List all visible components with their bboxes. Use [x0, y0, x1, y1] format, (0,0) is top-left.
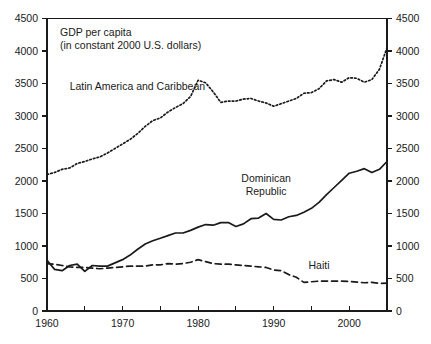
chart-canvas: 0050050010001000150015002000200025002500… [0, 0, 431, 344]
x-axis-label: 1970 [111, 317, 135, 329]
chart-annotation-line-2: (in constant 2000 U.S. dollars) [60, 39, 201, 51]
series-label-haiti: Haiti [308, 259, 329, 271]
y-axis-label-left: 1000 [15, 240, 39, 252]
series-line-haiti [47, 260, 387, 284]
y-axis-label-left: 4500 [15, 12, 39, 24]
y-axis-label-right: 2500 [396, 142, 420, 154]
y-axis-label-left: 500 [20, 272, 38, 284]
y-axis-label-right: 2000 [396, 175, 420, 187]
y-axis-label-right: 3500 [396, 77, 420, 89]
gdp-per-capita-chart: 0050050010001000150015002000200025002500… [0, 0, 431, 344]
y-axis-label-left: 0 [32, 305, 38, 317]
y-axis-label-left: 2500 [15, 142, 39, 154]
y-axis-label-left: 4000 [15, 45, 39, 57]
y-axis-label-left: 3000 [15, 110, 39, 122]
y-axis-label-right: 4500 [396, 12, 420, 24]
chart-annotation-line-1: GDP per capita [60, 26, 132, 38]
series-line-latin-america-and-caribbean [47, 48, 387, 175]
series-line-dominican-republic [47, 162, 387, 272]
y-axis-label-right: 0 [396, 305, 402, 317]
series-label-dominican-republic: Dominican [241, 172, 291, 184]
x-axis-label: 1980 [186, 317, 210, 329]
x-axis-label: 1990 [262, 317, 286, 329]
y-axis-label-right: 1000 [396, 240, 420, 252]
series-label-latin-america-and-caribbean: Latin America and Caribbean [70, 80, 206, 92]
y-axis-label-right: 1500 [396, 207, 420, 219]
x-axis-label: 2000 [338, 317, 362, 329]
y-axis-label-right: 3000 [396, 110, 420, 122]
y-axis-label-left: 3500 [15, 77, 39, 89]
x-axis-label: 1960 [35, 317, 59, 329]
y-axis-label-left: 1500 [15, 207, 39, 219]
y-axis-label-left: 2000 [15, 175, 39, 187]
series-label-dominican-republic: Republic [246, 185, 287, 197]
y-axis-label-right: 4000 [396, 45, 420, 57]
y-axis-label-right: 500 [396, 272, 414, 284]
